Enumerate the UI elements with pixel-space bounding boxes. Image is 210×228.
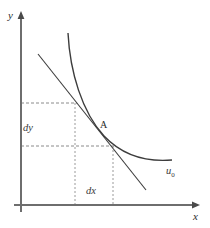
dx-label: dx — [86, 185, 96, 196]
indifference-curve — [68, 33, 172, 160]
diagram-canvas: y x dy dx A u0 — [0, 0, 210, 228]
point-a-label: A — [100, 119, 108, 130]
curve-label: u0 — [166, 165, 175, 179]
curve-label-subscript: 0 — [171, 171, 175, 179]
x-axis-arrow-icon — [192, 202, 200, 209]
dy-label: dy — [23, 122, 33, 133]
indifference-curve-figure: y x dy dx A u0 — [0, 0, 210, 228]
y-axis-arrow-icon — [18, 11, 25, 19]
y-axis-label: y — [7, 9, 13, 21]
x-axis-label: x — [192, 210, 198, 222]
tangent-line — [38, 54, 146, 190]
